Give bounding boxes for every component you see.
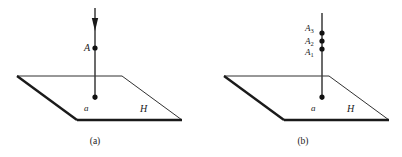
plane-edge-left-thick — [224, 76, 284, 120]
point-A1-subscript: 1 — [311, 51, 314, 58]
point-A1-label: A1 — [304, 47, 314, 58]
panel-a: A a H (a) — [17, 8, 182, 147]
point-A-label: A — [83, 42, 91, 53]
point-A3-dot — [319, 30, 324, 35]
geometry-figure: A a H (a) A3 A2 A1 a H — [0, 0, 402, 157]
plane-label-h-a: H — [139, 103, 148, 114]
plane-edge-left-thick — [17, 76, 77, 120]
plane-edge-right-thin — [122, 76, 182, 120]
caption-a: (a) — [90, 136, 101, 147]
caption-b: (b) — [297, 136, 308, 147]
point-a-dot — [92, 94, 97, 99]
point-a-dot — [319, 94, 324, 99]
point-A2-dot — [319, 38, 324, 43]
plane-label-h-b: H — [346, 103, 355, 114]
point-a-label: a — [84, 103, 89, 113]
arrowhead-down-icon — [92, 18, 98, 31]
point-A-dot — [92, 45, 97, 50]
point-A2-subscript: 2 — [311, 40, 314, 47]
point-A3-subscript: 3 — [311, 27, 314, 34]
point-a-label: a — [311, 103, 316, 113]
panel-b: A3 A2 A1 a H (b) — [224, 13, 389, 147]
point-A1-dot — [319, 46, 324, 51]
point-A3-label: A3 — [304, 23, 314, 34]
point-A2-label: A2 — [304, 36, 314, 47]
plane-edge-right-thin — [329, 76, 389, 120]
